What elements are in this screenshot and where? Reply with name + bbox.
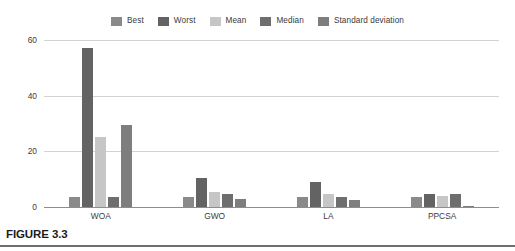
caption-divider-rule — [0, 245, 515, 247]
legend-item-label: Worst — [174, 17, 196, 25]
bar-group-ppcsa: PPCSA — [385, 40, 499, 207]
bar-woa-standard-deviation[interactable] — [121, 125, 132, 207]
bar-ppcsa-standard-deviation[interactable] — [463, 206, 474, 207]
y-axis-tick-label: 0 — [32, 202, 37, 212]
bar-gwo-mean[interactable] — [209, 192, 220, 207]
bar-ppcsa-worst[interactable] — [424, 194, 435, 207]
figure-caption-text: FIGURE 3.3 — [6, 228, 515, 241]
chart-plot-area: 0204060 WOAGWOLAPPCSA — [44, 40, 499, 207]
bar-ppcsa-median[interactable] — [450, 194, 461, 207]
x-axis-category-label: PPCSA — [385, 211, 499, 221]
bar-gwo-best[interactable] — [183, 197, 194, 207]
y-axis-tick-label: 20 — [28, 146, 37, 156]
legend-item-label: Best — [127, 17, 144, 25]
legend-swatch-icon — [210, 17, 221, 26]
legend-swatch-icon — [260, 17, 271, 26]
bar-la-standard-deviation[interactable] — [349, 200, 360, 207]
x-axis-line: 0 — [44, 207, 499, 208]
legend-item-median[interactable]: Median — [260, 17, 303, 26]
bar-woa-mean[interactable] — [95, 137, 106, 207]
chart-legend: BestWorstMeanMedianStandard deviation — [0, 13, 515, 29]
legend-swatch-icon — [158, 17, 169, 26]
bar-woa-median[interactable] — [108, 197, 119, 207]
legend-item-label: Mean — [226, 17, 247, 25]
x-axis-category-label: LA — [272, 211, 386, 221]
bar-la-mean[interactable] — [323, 194, 334, 207]
legend-item-best[interactable]: Best — [111, 17, 144, 26]
bar-la-worst[interactable] — [310, 182, 321, 207]
bar-woa-best[interactable] — [69, 197, 80, 207]
y-axis-tick-label: 40 — [28, 91, 37, 101]
bar-ppcsa-mean[interactable] — [437, 196, 448, 207]
figure-3-3: BestWorstMeanMedianStandard deviation 02… — [0, 0, 515, 251]
x-axis-category-label: GWO — [158, 211, 272, 221]
bar-group-la: LA — [272, 40, 386, 207]
y-axis-tick-label: 60 — [28, 35, 37, 45]
legend-item-label: Median — [276, 17, 303, 25]
bar-ppcsa-best[interactable] — [411, 197, 422, 207]
bar-groups: WOAGWOLAPPCSA — [44, 40, 499, 207]
bar-gwo-median[interactable] — [222, 194, 233, 207]
figure-caption: FIGURE 3.3 — [6, 228, 515, 241]
bar-group-woa: WOA — [44, 40, 158, 207]
bar-la-median[interactable] — [336, 197, 347, 207]
legend-swatch-icon — [111, 17, 122, 26]
bar-group-gwo: GWO — [158, 40, 272, 207]
legend-item-label: Standard deviation — [334, 17, 404, 25]
bar-gwo-standard-deviation[interactable] — [235, 199, 246, 207]
bar-la-best[interactable] — [297, 197, 308, 207]
bar-woa-worst[interactable] — [82, 48, 93, 207]
legend-item-mean[interactable]: Mean — [210, 17, 247, 26]
bar-gwo-worst[interactable] — [196, 178, 207, 207]
legend-item-standard-deviation[interactable]: Standard deviation — [318, 17, 404, 26]
legend-item-worst[interactable]: Worst — [158, 17, 196, 26]
legend-swatch-icon — [318, 17, 329, 26]
x-axis-category-label: WOA — [44, 211, 158, 221]
